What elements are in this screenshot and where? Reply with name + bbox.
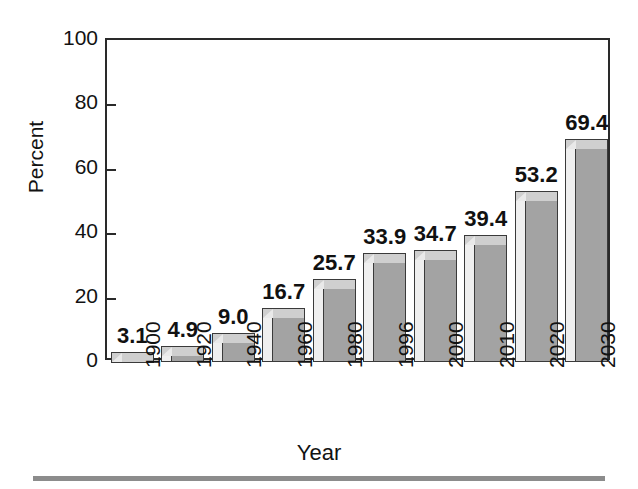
bar-top-face <box>565 139 608 149</box>
bottom-rule <box>33 476 605 481</box>
y-tick-label-100: 100 <box>44 27 98 48</box>
y-tick-mark-40 <box>107 233 116 235</box>
x-tick-label-2030: 2030 <box>596 278 620 368</box>
y-tick-mark-60 <box>107 169 116 171</box>
y-tick-label-80: 80 <box>44 91 98 112</box>
x-tick-label-2000: 2000 <box>444 278 468 368</box>
x-tick-label-2020: 2020 <box>545 278 569 368</box>
y-tick-mark-20 <box>107 298 116 300</box>
bar-top-face <box>515 191 558 201</box>
bar-value-1980: 25.7 <box>299 252 370 274</box>
y-tick-label-20: 20 <box>44 285 98 306</box>
y-tick-label-0: 0 <box>44 349 98 370</box>
x-tick-label-1940: 1940 <box>242 278 266 368</box>
bar-value-2010: 39.4 <box>450 208 521 230</box>
x-tick-label-2010: 2010 <box>495 278 519 368</box>
y-tick-label-40: 40 <box>44 220 98 241</box>
bar-chart-figure: Percent 020406080100 3.14.99.016.725.733… <box>0 0 638 489</box>
x-axis-title: Year <box>0 440 638 466</box>
x-tick-label-1960: 1960 <box>293 278 317 368</box>
bar-value-2020: 53.2 <box>501 164 572 186</box>
x-tick-label-1900: 1900 <box>141 278 165 368</box>
x-tick-label-1996: 1996 <box>394 278 418 368</box>
x-tick-label-1980: 1980 <box>343 278 367 368</box>
bar-value-2030: 69.4 <box>551 112 622 134</box>
y-tick-label-60: 60 <box>44 156 98 177</box>
bar-top-face <box>414 250 457 260</box>
x-tick-label-1920: 1920 <box>192 278 216 368</box>
y-tick-mark-80 <box>107 104 116 106</box>
